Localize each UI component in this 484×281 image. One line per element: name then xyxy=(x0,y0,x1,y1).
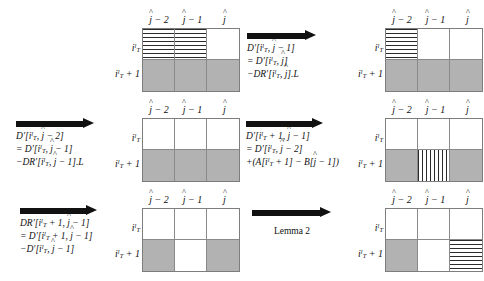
row-label-it: ilT xyxy=(104,132,140,143)
panel-4-column-headers: j − 2 j − 1 j xyxy=(385,104,483,115)
right-arrow-icon-6 xyxy=(252,207,332,218)
cell-r0-c1 xyxy=(175,209,207,240)
cell-r0-c2 xyxy=(450,29,482,60)
row-label-it: ilT xyxy=(347,132,383,143)
column-header-j-minus-1: j − 1 xyxy=(419,14,452,25)
panel-5-grid xyxy=(142,208,240,272)
panel-6-grid xyxy=(385,208,483,272)
right-arrow-icon-4 xyxy=(246,118,324,129)
column-header-j: j xyxy=(209,14,240,25)
panel-4-grid-wrap: j − 2 j − 1 j ilT ilT + 1 xyxy=(355,104,484,182)
column-header-j: j xyxy=(209,194,240,205)
row-label-it: ilT xyxy=(347,42,383,53)
panel-2-grid-wrap: j − 2 j − 1 j ilT ilT + 1 xyxy=(355,14,484,92)
cell-r1-c1 xyxy=(418,240,450,271)
column-header-j-minus-1: j − 1 xyxy=(419,194,452,205)
cell-r1-c0 xyxy=(386,150,418,181)
caption-line-2: = D′[ilT, j − 2] xyxy=(246,143,366,156)
cell-r0-c2 xyxy=(450,209,482,240)
row-label-it-plus-1: ilT + 1 xyxy=(333,158,383,169)
cell-r1-c2 xyxy=(450,240,482,271)
right-arrow-icon-3 xyxy=(16,118,96,129)
column-header-j-minus-1: j − 1 xyxy=(176,194,209,205)
column-header-j-minus-1: j − 1 xyxy=(176,104,209,115)
column-header-j: j xyxy=(452,14,483,25)
panel-6-arrow-block: Lemma 2 xyxy=(252,207,362,238)
cell-r1-c0 xyxy=(143,240,175,271)
column-header-j-minus-1: j − 1 xyxy=(419,104,452,115)
column-header-j: j xyxy=(452,194,483,205)
cell-r0-c2 xyxy=(207,29,239,60)
cell-r1-c1 xyxy=(418,150,450,181)
cell-r1-c2 xyxy=(207,150,239,181)
cell-r0-c1 xyxy=(175,29,207,60)
panel-5-grid-wrap: j − 2 j − 1 j ilT ilT + 1 xyxy=(110,194,240,272)
column-header-j-minus-2: j − 2 xyxy=(385,104,419,115)
panel-6-column-headers: j − 2 j − 1 j xyxy=(385,194,483,205)
panel-1-column-headers: j − 2 j − 1 j xyxy=(142,14,240,25)
panel-5-column-headers: j − 2 j − 1 j xyxy=(142,194,240,205)
cell-r1-c0 xyxy=(386,60,418,91)
cell-r0-c1 xyxy=(418,29,450,60)
right-arrow-icon-2 xyxy=(247,30,317,41)
cell-r0-c0 xyxy=(143,209,175,240)
panel-4-grid xyxy=(385,118,483,182)
panel-6-grid-wrap: j − 2 j − 1 j ilT ilT + 1 xyxy=(355,194,484,272)
row-label-it-plus-1: ilT + 1 xyxy=(333,68,383,79)
cell-r1-c2 xyxy=(450,60,482,91)
figure-root: { "figure": { "type": "dynamic-programmi… xyxy=(0,0,484,281)
panel-3-grid xyxy=(142,118,240,182)
row-label-it-plus-1: ilT + 1 xyxy=(90,248,140,259)
panel-1-grid-wrap: j − 2 j − 1 j ilT ilT + 1 xyxy=(110,14,240,92)
row-label-it-plus-1: ilT + 1 xyxy=(90,158,140,169)
row-label-it: ilT xyxy=(104,42,140,53)
column-header-j-minus-2: j − 2 xyxy=(142,104,176,115)
cell-r1-c1 xyxy=(418,60,450,91)
cell-r1-c2 xyxy=(450,150,482,181)
column-header-j-minus-2: j − 2 xyxy=(142,14,176,25)
cell-r1-c1 xyxy=(175,240,207,271)
cell-r1-c2 xyxy=(207,60,239,91)
cell-r0-c1 xyxy=(418,119,450,150)
cell-r1-c1 xyxy=(175,150,207,181)
cell-r0-c1 xyxy=(175,119,207,150)
column-header-j-minus-2: j − 2 xyxy=(385,194,419,205)
panel-6-caption: Lemma 2 xyxy=(252,225,332,238)
cell-r0-c1 xyxy=(418,209,450,240)
row-label-it: ilT xyxy=(104,222,140,233)
panel-3-grid-wrap: j − 2 j − 1 j ilT ilT + 1 xyxy=(110,104,240,182)
row-label-it: ilT xyxy=(347,222,383,233)
cell-r0-c2 xyxy=(207,119,239,150)
cell-r0-c2 xyxy=(450,119,482,150)
cell-r0-c0 xyxy=(386,209,418,240)
cell-r0-c0 xyxy=(143,119,175,150)
cell-r1-c0 xyxy=(386,240,418,271)
caption-line-2: = D′[ilT, j] xyxy=(247,55,357,68)
cell-r1-c0 xyxy=(143,150,175,181)
cell-r0-c2 xyxy=(207,209,239,240)
cell-r0-c0 xyxy=(386,119,418,150)
column-header-j: j xyxy=(209,104,240,115)
column-header-j-minus-1: j − 1 xyxy=(176,14,209,25)
cell-r0-c0 xyxy=(143,29,175,60)
cell-r1-c0 xyxy=(143,60,175,91)
caption-line-1: Lemma 2 xyxy=(252,225,332,238)
cell-r0-c0 xyxy=(386,29,418,60)
cell-r1-c2 xyxy=(207,240,239,271)
column-header-j-minus-2: j − 2 xyxy=(142,194,176,205)
caption-line-1: D′[ilT, j − 1] xyxy=(247,42,357,55)
cell-r1-c1 xyxy=(175,60,207,91)
column-header-j-minus-2: j − 2 xyxy=(385,14,419,25)
panel-2-column-headers: j − 2 j − 1 j xyxy=(385,14,483,25)
row-label-it-plus-1: ilT + 1 xyxy=(333,248,383,259)
right-arrow-icon-5 xyxy=(20,205,98,216)
row-label-it-plus-1: ilT + 1 xyxy=(90,68,140,79)
panel-2-grid xyxy=(385,28,483,92)
panel-1-grid xyxy=(142,28,240,92)
column-header-j: j xyxy=(452,104,483,115)
panel-3-column-headers: j − 2 j − 1 j xyxy=(142,104,240,115)
